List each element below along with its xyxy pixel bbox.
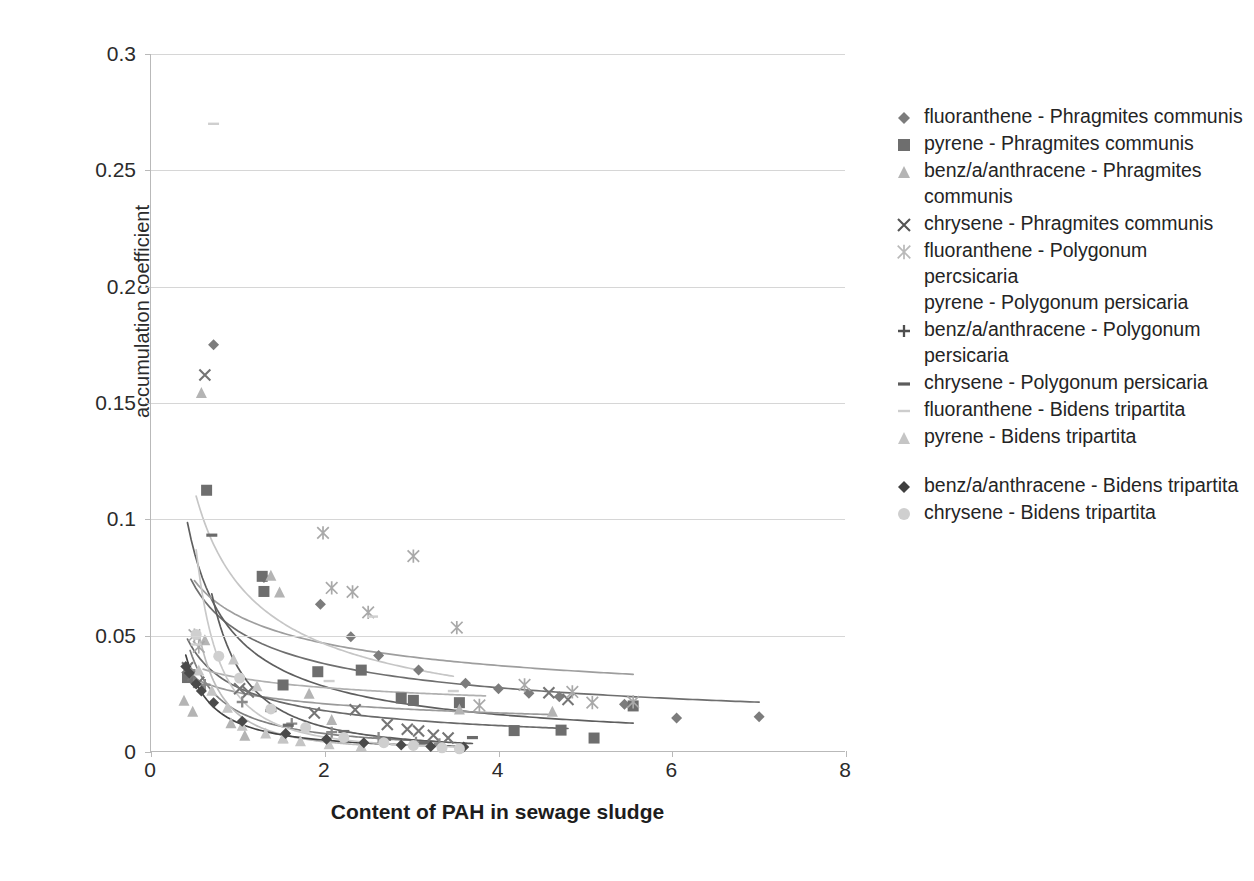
triangle-light-icon: [893, 427, 917, 449]
triangle-icon: [893, 161, 917, 183]
gridline: [151, 287, 845, 288]
x-tick-label: 2: [318, 758, 330, 782]
legend-item-label: benz/a/anthracene - Bidens tripartita: [924, 473, 1245, 499]
circle-icon: [893, 503, 917, 525]
x-axis-tick: [499, 751, 500, 757]
x-axis-tick: [151, 751, 152, 757]
y-tick-label: 0.05: [95, 624, 136, 648]
legend-item-label: benz/a/anthracene - Polygonum persicaria: [924, 317, 1245, 369]
legend-item[interactable]: pyrene - Bidens tripartita: [893, 424, 1245, 450]
x-axis-title: Content of PAH in sewage sludge: [150, 800, 845, 824]
legend-item[interactable]: benz/a/anthracene - Polygonum persicaria: [893, 317, 1245, 369]
legend-item[interactable]: benz/a/anthracene - Bidens tripartita: [893, 473, 1245, 499]
legend-item[interactable]: chrysene - Bidens tripartita: [893, 500, 1245, 526]
x-tick-label: 0: [144, 758, 156, 782]
chart-legend: fluoranthene - Phragmites communispyrene…: [893, 104, 1245, 527]
chart-container: 00.050.10.150.20.250.3 accumulation coef…: [0, 0, 1254, 881]
diamond-dark-icon: [893, 476, 917, 498]
legend-item-label: pyrene - Bidens tripartita: [924, 424, 1245, 450]
x-icon: [893, 214, 917, 236]
legend-item-label: chrysene - Polygonum persicaria: [924, 370, 1245, 396]
plus-icon: [893, 320, 917, 342]
x-axis-tick: [672, 751, 673, 757]
legend-item-label: fluoranthene - Polygonum percsicaria: [924, 238, 1245, 290]
y-axis-tick: [145, 519, 151, 520]
x-tick-label: 8: [839, 758, 851, 782]
plot-area: [150, 54, 845, 752]
square-icon: [893, 134, 917, 156]
legend-item[interactable]: chrysene - Phragmites communis: [893, 211, 1245, 237]
legend-spacer: [893, 451, 1245, 473]
gridline: [151, 403, 845, 404]
hline-icon: [893, 400, 917, 422]
y-axis-tick: [145, 54, 151, 55]
legend-item[interactable]: benz/a/anthracene - Phragmites communis: [893, 158, 1245, 210]
gridline: [151, 519, 845, 520]
data-points: [179, 123, 765, 755]
legend-item[interactable]: fluoranthene - Bidens tripartita: [893, 397, 1245, 423]
gridline: [151, 170, 845, 171]
legend-item[interactable]: fluoranthene - Polygonum percsicaria: [893, 238, 1245, 290]
legend-item[interactable]: fluoranthene - Phragmites communis: [893, 104, 1245, 130]
x-axis-tick-labels: 02468: [150, 758, 845, 794]
x-axis-tick: [846, 751, 847, 757]
dash-icon: [893, 373, 917, 395]
legend-item-label: fluoranthene - Bidens tripartita: [924, 397, 1245, 423]
x-tick-label: 4: [492, 758, 504, 782]
legend-item-label: chrysene - Phragmites communis: [924, 211, 1245, 237]
y-axis-tick: [145, 287, 151, 288]
x-tick-label: 6: [665, 758, 677, 782]
y-axis-tick-labels: 00.050.10.150.20.250.3: [18, 54, 136, 752]
x-axis-tick: [325, 751, 326, 757]
legend-item-label: fluoranthene - Phragmites communis: [924, 104, 1245, 130]
y-axis-tick: [145, 636, 151, 637]
diamond-icon: [893, 107, 917, 129]
legend-item-label: chrysene - Bidens tripartita: [924, 500, 1245, 526]
gridline: [151, 636, 845, 637]
y-tick-label: 0.1: [107, 507, 136, 531]
legend-item[interactable]: pyrene - Phragmites communis: [893, 131, 1245, 157]
y-tick-label: 0: [124, 740, 136, 764]
legend-item-label: pyrene - Phragmites communis: [924, 131, 1245, 157]
none-icon: [893, 293, 917, 315]
gridline: [151, 54, 845, 55]
legend-item-label: pyrene - Polygonum persicaria: [924, 290, 1245, 316]
y-axis-tick: [145, 170, 151, 171]
legend-item[interactable]: chrysene - Polygonum persicaria: [893, 370, 1245, 396]
legend-item[interactable]: pyrene - Polygonum persicaria: [893, 290, 1245, 316]
asterisk-icon: [893, 241, 917, 263]
y-axis-tick: [145, 403, 151, 404]
legend-item-label: benz/a/anthracene - Phragmites communis: [924, 158, 1245, 210]
y-tick-label: 0.3: [107, 42, 136, 66]
